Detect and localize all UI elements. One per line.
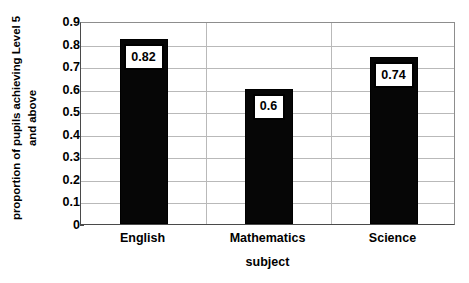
x-tick-label-english: English <box>80 231 205 245</box>
y-tick-label: 0.9 <box>46 16 80 28</box>
data-label-english: 0.82 <box>124 44 164 70</box>
y-tick-label: 0.2 <box>46 174 80 186</box>
y-tick-label: 0 <box>46 219 80 231</box>
y-tick-label: 0.1 <box>46 196 80 208</box>
data-label-science: 0.74 <box>374 62 414 88</box>
data-label-mathematics: 0.6 <box>253 94 285 120</box>
gridline-vertical <box>331 23 332 224</box>
y-tick-label: 0.3 <box>46 151 80 163</box>
x-tick-label-science: Science <box>330 231 455 245</box>
y-tick-mark <box>80 225 84 226</box>
y-tick-label: 0.6 <box>46 84 80 96</box>
y-tick-label: 0.5 <box>46 106 80 118</box>
gridline-vertical <box>206 23 207 224</box>
x-axis-title: subject <box>80 255 455 269</box>
y-tick-label: 0.4 <box>46 129 80 141</box>
plot-area: 0.820.60.74 <box>80 22 455 225</box>
y-tick-label: 0.8 <box>46 39 80 51</box>
x-tick-label-mathematics: Mathematics <box>205 231 330 245</box>
y-tick-label: 0.7 <box>46 61 80 73</box>
y-axis-ticks: 00.10.20.30.40.50.60.70.80.9 <box>38 22 80 225</box>
bar-chart: proportion of pupils achieving Level 5 a… <box>0 0 469 283</box>
